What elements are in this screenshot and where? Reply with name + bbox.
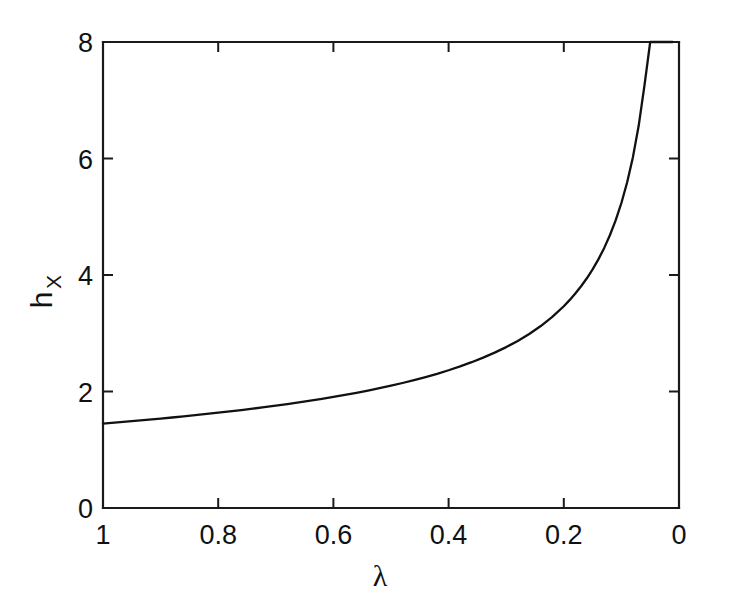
- y-axis-title-main: h: [25, 292, 58, 309]
- x-axis-title: λ: [373, 559, 388, 592]
- y-tick-label-6: 6: [78, 145, 93, 175]
- chart-background: [0, 0, 741, 601]
- x-tick-label-0p8: 0.8: [199, 520, 237, 550]
- y-tick-label-4: 4: [78, 261, 93, 291]
- x-tick-label-0p6: 0.6: [315, 520, 353, 550]
- y-tick-label-0: 0: [78, 494, 93, 524]
- x-tick-label-0p4: 0.4: [430, 520, 468, 550]
- y-tick-label-8: 8: [78, 28, 93, 58]
- y-axis-title-subscript: X: [42, 275, 65, 289]
- x-tick-label-0: 0: [671, 520, 686, 550]
- x-tick-label-1: 1: [95, 520, 110, 550]
- y-tick-label-2: 2: [78, 378, 93, 408]
- chart-plot: 0 2 4 6 8 1 0.8 0.6 0.4 0.2 0 λ h X: [0, 0, 741, 601]
- x-tick-label-0p2: 0.2: [545, 520, 583, 550]
- figure-container: 0 2 4 6 8 1 0.8 0.6 0.4 0.2 0 λ h X: [0, 0, 741, 601]
